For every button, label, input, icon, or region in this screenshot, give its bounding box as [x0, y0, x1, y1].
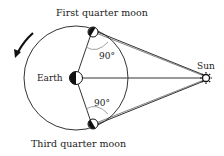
earth-icon	[70, 72, 83, 85]
moon-phases-diagram: First quarter moon Third quarter moon Ea…	[0, 0, 224, 156]
third-quarter-sun-line-2	[96, 80, 204, 123]
earth-first-quarter-line	[78, 31, 92, 72]
angle-label-top: 90°	[99, 51, 115, 61]
third-quarter-label: Third quarter moon	[31, 138, 126, 149]
angle-label-bottom: 90°	[94, 98, 110, 108]
sun-label: Sun	[197, 61, 215, 71]
first-quarter-moon-icon	[88, 27, 98, 37]
earth-third-quarter-line	[78, 84, 92, 125]
first-quarter-label: First quarter moon	[56, 7, 148, 18]
third-quarter-sun-line	[95, 81, 204, 125]
earth-label: Earth	[37, 73, 63, 83]
right-angle-arc-top	[86, 42, 108, 50]
third-quarter-moon-icon	[88, 119, 98, 129]
